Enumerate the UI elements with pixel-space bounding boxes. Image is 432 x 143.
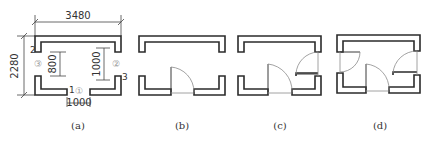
dimension-width: 3480 (32, 10, 124, 36)
panel-b-caption: (b) (175, 120, 189, 131)
wall-bottom-right (292, 76, 321, 95)
marker-bottom: 1 (69, 85, 75, 95)
door-right (393, 51, 417, 75)
door-bottom (366, 64, 389, 91)
circled-label-right: ② (112, 59, 120, 69)
wall-bottom-left (238, 76, 268, 95)
dimension-bottom-opening: 1000 (66, 97, 91, 108)
wall-top (337, 35, 420, 52)
wall-bottom-left (337, 73, 366, 93)
wall-top (238, 36, 321, 52)
panel-d-caption: (d) (373, 120, 387, 131)
panel-d: (d) (337, 35, 420, 131)
wall-bottom-left (35, 76, 67, 95)
dimension-right-opening: 1000 (91, 48, 110, 80)
marker-right: 3 (122, 72, 128, 82)
circled-label-left: ③ (34, 59, 42, 69)
door-bottom (171, 67, 194, 93)
panel-a: 3480 2280 800 1000 (9, 10, 128, 131)
circled-label-bottom: ① (75, 86, 83, 96)
wall-bottom-right (389, 75, 420, 93)
dimension-width-label: 3480 (65, 10, 90, 21)
panel-c: (c) (238, 36, 321, 131)
panel-a-caption: (a) (71, 120, 85, 131)
dimension-right-opening-label: 1000 (91, 51, 102, 76)
wall-bottom-left (139, 76, 171, 95)
door-left (340, 52, 360, 73)
panel-b: (b) (139, 36, 225, 131)
wall-top (139, 36, 225, 52)
dimension-height-label: 2280 (9, 53, 20, 78)
floor-plan-figure: 3480 2280 800 1000 (0, 0, 432, 143)
wall-bottom-right (90, 76, 121, 95)
wall-top (35, 36, 121, 52)
dimension-left-opening: 800 (47, 52, 66, 76)
wall-bottom-right (194, 76, 225, 95)
door-bottom (268, 64, 292, 93)
dimension-left-opening-label: 800 (47, 54, 58, 73)
dimension-height: 2280 (9, 33, 35, 98)
dimension-bottom-opening-label: 1000 (66, 97, 91, 108)
marker-left: 2 (30, 45, 36, 55)
panel-c-caption: (c) (273, 120, 287, 131)
